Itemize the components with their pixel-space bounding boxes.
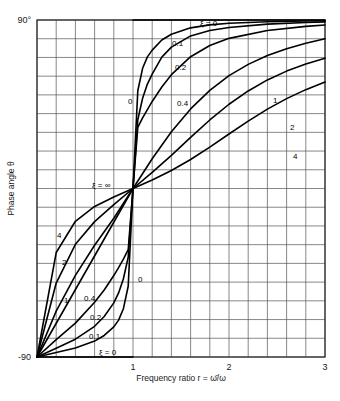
curve-label-4-left: 4: [57, 231, 62, 240]
y-axis-title: Phase angle θ: [6, 161, 16, 216]
y-tick-label-bottom: -90: [18, 352, 31, 362]
x-axis-title: Frequency ratio r = ω̄/ω: [136, 373, 226, 383]
chart-background: [0, 0, 340, 401]
curve-label-2-right: 2: [290, 123, 295, 132]
y-tick-label-top: 90°: [17, 15, 31, 25]
curve-label-0p1-left: 0.1: [89, 332, 101, 341]
curve-label-4-right: 4: [293, 152, 298, 161]
curve-label-0p4-left: 0.4: [84, 294, 96, 303]
x-tick-label: 3: [322, 362, 327, 372]
curve-label-0-lower: 0: [138, 275, 143, 284]
curve-label-2-left: 2: [62, 258, 67, 267]
curve-label-0p1-top: 0.1: [172, 39, 184, 48]
curve-label-0-upper: 0: [128, 97, 133, 106]
x-tick-label: 1: [130, 362, 135, 372]
curve-label-1-left: 1: [64, 296, 69, 305]
phase-angle-chart: ξ = 00.10.20.40124ξ = ∞4210.40.20.10ξ = …: [0, 0, 340, 401]
x-tick-label: 2: [226, 362, 231, 372]
curve-label-0p4-top: 0.4: [177, 99, 189, 108]
curve-label-1-right: 1: [273, 96, 278, 105]
curve-label-0p2-left: 0.2: [90, 313, 102, 322]
curve-label-0p2-top: 0.2: [175, 63, 187, 72]
curve-label-zeta-infinity: ξ = ∞: [92, 181, 111, 190]
curve-label-zeta-0-top: ξ = 0: [200, 19, 218, 28]
chart-canvas: ξ = 00.10.20.40124ξ = ∞4210.40.20.10ξ = …: [0, 0, 340, 401]
curve-label-zeta-0-bottom: ξ = 0: [99, 348, 117, 357]
